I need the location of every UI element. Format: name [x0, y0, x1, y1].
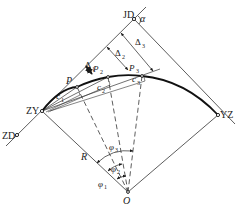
label-p1-tangent: P — [65, 75, 72, 86]
label-o: O — [123, 195, 130, 206]
tangent-lines — [6, 7, 235, 146]
zd-point — [15, 133, 18, 136]
label-delta1: Δ — [85, 60, 91, 70]
radius-lines — [42, 111, 218, 192]
p2-point — [107, 76, 110, 79]
label-r: R — [80, 151, 87, 162]
label-c2: c — [97, 82, 101, 92]
label-c2-sub: 2 — [102, 88, 105, 94]
p1-point — [76, 86, 79, 89]
radius-yz — [128, 115, 218, 192]
label-c1: c — [56, 91, 60, 101]
label-p3-head: P — [128, 63, 135, 73]
dashed-radius-p1 — [77, 87, 128, 192]
phi1-arc — [117, 176, 126, 179]
p3-point — [141, 75, 144, 78]
label-c3: c — [132, 74, 136, 84]
back-tangent — [6, 7, 146, 146]
chord-dimension-lines — [46, 77, 145, 112]
label-delta1-sub: 1 — [92, 66, 95, 72]
label-delta3-sub: 3 — [142, 43, 145, 49]
label-phi1-sub: 1 — [104, 184, 107, 190]
label-yz: YZ — [220, 109, 233, 120]
label-p3-sub: 3 — [136, 68, 139, 74]
label-alpha: α — [140, 13, 146, 24]
label-delta3: Δ — [135, 37, 141, 47]
label-delta2-sub: 2 — [122, 54, 125, 60]
label-phi1: φ — [98, 179, 103, 189]
label-phi2-sub: 2 — [117, 169, 120, 175]
zy-point — [40, 109, 43, 112]
label-zd: ZD — [2, 130, 15, 141]
dashed-radius-p3 — [128, 76, 142, 192]
label-phi3: φ — [109, 142, 114, 152]
label-zy: ZY — [26, 105, 39, 116]
o-point — [127, 191, 130, 194]
label-phi3-sub: 3 — [115, 147, 118, 153]
label-c1-sub: 1 — [61, 97, 64, 103]
label-delta2: Δ — [115, 48, 121, 58]
label-c3-sub: 3 — [137, 80, 140, 86]
label-phi2: φ — [111, 164, 116, 174]
curve-setout-diagram: JD α ZY YZ ZD O R P P 2 P 3 Δ 1 Δ 2 Δ 3 … — [0, 0, 243, 212]
label-jd: JD — [123, 9, 134, 20]
label-p2-sub: 2 — [100, 69, 103, 75]
